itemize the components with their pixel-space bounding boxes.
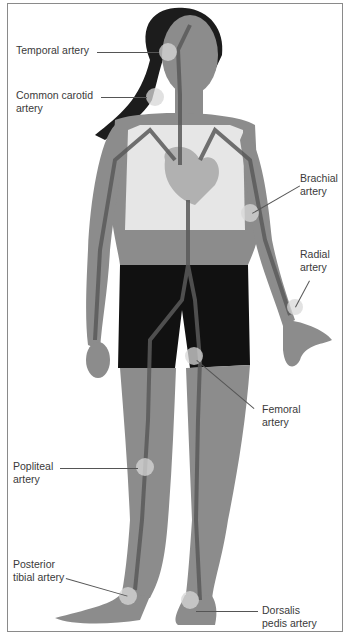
label-temporal-artery: Temporal artery [16, 44, 89, 57]
label-femoral-artery: Femoral artery [262, 403, 301, 429]
pulse-point-temporal [159, 43, 177, 61]
pulse-point-brachial [241, 204, 259, 222]
leader-popliteal [60, 468, 138, 469]
pulse-point-posterior-tibial [119, 587, 137, 605]
label-posterior-tibial-artery: Posterior tibial artery [13, 558, 64, 584]
label-common-carotid-artery: Common carotid artery [16, 89, 93, 115]
right-hand [283, 320, 332, 367]
label-brachial-artery: Brachial artery [300, 172, 338, 198]
label-popliteal-artery: Popliteal artery [13, 460, 53, 486]
label-radial-artery: Radial artery [300, 248, 330, 274]
label-dorsalis-pedis-artery: Dorsalis pedis artery [262, 604, 317, 630]
left-hand [86, 342, 110, 378]
pulse-point-carotid [146, 88, 164, 106]
pulse-point-dorsalis-pedis [181, 591, 199, 609]
leader-carotid [101, 97, 147, 98]
leader-temporal [97, 52, 159, 53]
leader-dorsalis-pedis [196, 611, 258, 612]
pulse-point-popliteal [136, 458, 154, 476]
